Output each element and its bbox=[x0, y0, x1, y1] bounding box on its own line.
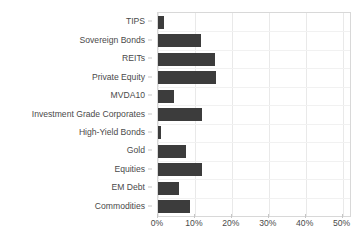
x-tick-mark bbox=[231, 214, 232, 218]
x-tick-mark bbox=[342, 214, 343, 218]
bar[interactable] bbox=[158, 108, 202, 121]
bar[interactable] bbox=[158, 34, 201, 47]
y-gridline bbox=[158, 87, 350, 88]
bar-chart: TIPSSovereign BondsREITsPrivate EquityMV… bbox=[0, 0, 357, 247]
y-gridline bbox=[158, 124, 350, 125]
x-gridline bbox=[269, 13, 270, 216]
y-gridline bbox=[158, 179, 350, 180]
y-tick-label: Private Equity bbox=[92, 72, 145, 81]
x-tick-label: 0% bbox=[151, 219, 163, 228]
x-tick-label: 20% bbox=[222, 219, 239, 228]
y-tick-label: High-Yield Bonds bbox=[79, 128, 145, 137]
bar-row bbox=[158, 142, 186, 160]
bar[interactable] bbox=[158, 71, 216, 84]
y-tick-label: EM Debt bbox=[112, 183, 145, 192]
x-gridline bbox=[232, 13, 233, 216]
y-tick-label: Investment Grade Corporates bbox=[32, 109, 145, 118]
y-tick-mark bbox=[148, 131, 152, 132]
bar-row bbox=[158, 87, 174, 105]
x-tick-mark bbox=[268, 214, 269, 218]
y-tick-mark bbox=[148, 58, 152, 59]
bar-row bbox=[158, 50, 215, 68]
y-tick-mark bbox=[148, 187, 152, 188]
y-tick-label: MVDA10 bbox=[111, 91, 145, 100]
plot-area bbox=[157, 12, 351, 217]
bar-row bbox=[158, 124, 161, 142]
bar[interactable] bbox=[158, 200, 190, 213]
y-tick-mark bbox=[148, 95, 152, 96]
bar-row bbox=[158, 105, 202, 123]
y-tick-label: Commodities bbox=[95, 201, 145, 210]
y-tick-label: Sovereign Bonds bbox=[80, 35, 145, 44]
y-tick-mark bbox=[148, 113, 152, 114]
y-tick-mark bbox=[148, 76, 152, 77]
x-tick-label: 30% bbox=[259, 219, 276, 228]
bar[interactable] bbox=[158, 182, 179, 195]
y-axis: TIPSSovereign BondsREITsPrivate EquityMV… bbox=[0, 12, 152, 217]
bar-row bbox=[158, 161, 202, 179]
y-tick-mark bbox=[148, 205, 152, 206]
y-tick-mark bbox=[148, 150, 152, 151]
x-tick-label: 40% bbox=[296, 219, 313, 228]
x-tick-label: 10% bbox=[185, 219, 202, 228]
bar-row bbox=[158, 198, 190, 216]
bar[interactable] bbox=[158, 53, 215, 66]
bar-row bbox=[158, 13, 164, 31]
y-tick-mark bbox=[148, 21, 152, 22]
y-tick-label: Equities bbox=[114, 165, 145, 174]
y-tick-mark bbox=[148, 168, 152, 169]
bar[interactable] bbox=[158, 163, 202, 176]
bar[interactable] bbox=[158, 16, 164, 29]
x-tick-label: 50% bbox=[333, 219, 350, 228]
x-tick-mark bbox=[157, 214, 158, 218]
x-axis: 0%10%20%30%40%50% bbox=[157, 219, 351, 235]
y-tick-mark bbox=[148, 39, 152, 40]
bar[interactable] bbox=[158, 145, 186, 158]
y-gridline bbox=[158, 142, 350, 143]
y-tick-label: Gold bbox=[127, 146, 145, 155]
bar[interactable] bbox=[158, 126, 161, 139]
x-gridline bbox=[343, 13, 344, 216]
bar-row bbox=[158, 68, 216, 86]
x-gridline bbox=[306, 13, 307, 216]
y-tick-label: TIPS bbox=[126, 17, 145, 26]
bar-row bbox=[158, 179, 179, 197]
x-tick-mark bbox=[305, 214, 306, 218]
bar[interactable] bbox=[158, 90, 174, 103]
y-tick-label: REITs bbox=[122, 54, 145, 63]
x-tick-mark bbox=[194, 214, 195, 218]
bar-row bbox=[158, 31, 201, 49]
